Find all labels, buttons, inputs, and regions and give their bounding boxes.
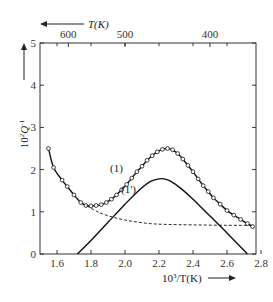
top-axis-ticks: 600500400 <box>57 28 227 47</box>
top-tick-label: 600 <box>60 28 77 40</box>
x-axis-ticks: 1.61.82.02.22.42.62.8 <box>50 250 268 269</box>
data-point-marker <box>110 197 114 201</box>
data-point-marker <box>60 178 64 182</box>
data-point-marker <box>89 204 93 208</box>
data-point-marker <box>239 217 243 221</box>
curve-label: (1') <box>121 183 136 196</box>
data-point-marker <box>135 170 139 174</box>
y-axis-title: 102Q-1 <box>18 43 30 148</box>
data-point-marker <box>186 163 190 167</box>
data-point-marker <box>218 202 222 206</box>
data-point-marker <box>171 148 175 152</box>
x-axis-label: 103/T(K) <box>162 272 202 285</box>
y-tick-label: 5 <box>31 37 37 49</box>
y-tick-label: 2 <box>31 164 37 176</box>
data-series <box>47 147 255 254</box>
top-axis-label: T(K) <box>88 18 109 31</box>
data-point-marker <box>130 176 134 180</box>
arrow-up-icon <box>21 43 27 50</box>
data-point-marker <box>99 203 103 207</box>
top-tick-label: 500 <box>117 28 134 40</box>
y-axis-label: 102Q-1 <box>18 119 30 148</box>
y-tick-label: 4 <box>31 79 37 91</box>
y-tick-label: 0 <box>31 248 37 260</box>
data-point-marker <box>191 170 195 174</box>
y-tick-label: 1 <box>31 206 37 218</box>
y-axis-ticks: 012345 <box>31 37 257 260</box>
data-point-marker <box>212 196 216 200</box>
data-point-marker <box>181 157 185 161</box>
x-tick-label: 2.4 <box>186 257 200 269</box>
data-point-marker <box>196 177 200 181</box>
data-point-marker <box>79 201 83 205</box>
x-axis-title: 103/T(K) <box>162 272 236 285</box>
x-tick-label: 2.6 <box>220 257 234 269</box>
data-point-marker <box>52 166 56 170</box>
data-point-marker <box>115 193 119 197</box>
arrow-left-icon <box>40 21 47 27</box>
data-point-marker <box>145 158 149 162</box>
chart: T(K) 600500400 1.61.82.02.22.42.62.8 012… <box>0 0 273 302</box>
data-point-marker <box>150 154 154 158</box>
x-tick-label: 1.8 <box>84 257 98 269</box>
data-point-marker <box>206 190 210 194</box>
top-tick-label: 400 <box>202 28 219 40</box>
x-tick-label: 2.8 <box>254 257 268 269</box>
data-point-marker <box>47 147 51 151</box>
x-tick-label: 2.0 <box>118 257 132 269</box>
arrow-right-icon <box>229 275 236 281</box>
data-point-marker <box>225 209 229 213</box>
data-point-marker <box>155 150 159 154</box>
x-tick-label: 1.6 <box>50 257 64 269</box>
x-tick-label: 2.2 <box>152 257 166 269</box>
series--1-measured <box>47 147 255 229</box>
data-point-marker <box>166 147 170 151</box>
data-point-marker <box>140 164 144 168</box>
data-point-marker <box>72 193 76 197</box>
data-point-marker <box>94 204 98 208</box>
y-tick-label: 3 <box>31 121 37 133</box>
data-point-marker <box>201 184 205 188</box>
curve-label: (1) <box>110 162 123 175</box>
data-point-marker <box>161 147 165 151</box>
data-point-marker <box>104 201 108 205</box>
plot-frame <box>40 43 256 254</box>
data-point-marker <box>176 152 180 156</box>
data-point-marker <box>232 213 236 217</box>
series--1-peak <box>77 179 247 254</box>
data-point-marker <box>65 185 69 189</box>
